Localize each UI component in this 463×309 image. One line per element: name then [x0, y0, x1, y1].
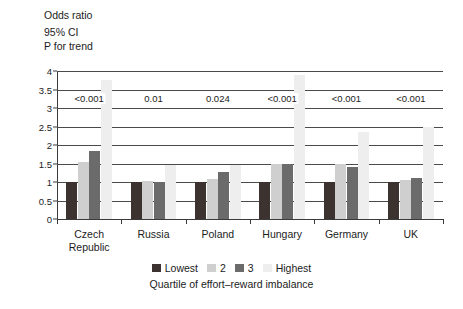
- bar[interactable]: [89, 151, 100, 219]
- caption-block: Odds ratio 95% CI P for trend: [44, 9, 93, 54]
- x-axis-category-label: Russia: [137, 228, 169, 241]
- x-axis-category-label: Germany: [325, 228, 368, 241]
- legend-swatch-icon: [235, 264, 244, 272]
- p-value-annotation: <0.001: [265, 93, 298, 104]
- legend-item[interactable]: 2: [207, 262, 226, 274]
- x-axis-category-label: Czech Republic: [69, 228, 110, 254]
- plot-area: 00.511.522.533.54 <0.0010.010.024<0.001<…: [57, 71, 443, 219]
- legend-swatch-icon: [263, 264, 272, 272]
- bar[interactable]: [347, 167, 358, 219]
- p-value-annotation: <0.001: [330, 93, 363, 104]
- x-axis-category-label: Poland: [201, 228, 234, 241]
- bar[interactable]: [423, 127, 434, 220]
- x-axis-tick-mark: [121, 219, 122, 224]
- bar-group: 0.01: [121, 71, 185, 219]
- bar[interactable]: [282, 164, 293, 220]
- bar[interactable]: [411, 178, 422, 219]
- legend-swatch-icon: [207, 264, 216, 272]
- x-axis-tick-mark: [314, 219, 315, 224]
- bar[interactable]: [388, 182, 399, 219]
- x-axis-tick-mark: [186, 219, 187, 224]
- bar[interactable]: [142, 181, 153, 219]
- bar[interactable]: [66, 182, 77, 219]
- caption-line-ci: 95% CI: [44, 26, 93, 40]
- bar[interactable]: [358, 132, 369, 219]
- bar[interactable]: [324, 182, 335, 219]
- bar-group: 0.024: [186, 71, 250, 219]
- p-value-annotation: <0.001: [72, 93, 105, 104]
- x-axis-tick-mark: [379, 219, 380, 224]
- bar-group: <0.001: [57, 71, 121, 219]
- bar[interactable]: [335, 164, 346, 220]
- legend-item[interactable]: Highest: [263, 262, 312, 274]
- p-value-annotation: 0.024: [204, 93, 232, 104]
- legend-item-label: 3: [248, 262, 254, 274]
- legend-item-label: 2: [220, 262, 226, 274]
- x-axis-label: Quartile of effort–reward imbalance: [0, 278, 463, 290]
- bar-group: <0.001: [250, 71, 314, 219]
- bar[interactable]: [195, 182, 206, 219]
- legend-item-label: Highest: [276, 262, 312, 274]
- bar-groups: <0.0010.010.024<0.001<0.001<0.001: [57, 71, 443, 219]
- figure: Odds ratio 95% CI P for trend 00.511.522…: [0, 0, 463, 309]
- bar[interactable]: [78, 162, 89, 219]
- p-value-annotation: <0.001: [394, 93, 427, 104]
- caption-line-odds-ratio: Odds ratio: [44, 9, 93, 23]
- legend: Lowest23Highest: [0, 262, 463, 274]
- bar[interactable]: [218, 172, 229, 219]
- caption-line-p-trend: P for trend: [44, 40, 93, 54]
- x-axis-tick-mark: [57, 219, 58, 224]
- legend-swatch-icon: [152, 264, 161, 272]
- x-axis-category-label: UK: [404, 228, 419, 241]
- p-value-annotation: 0.01: [142, 93, 165, 104]
- bar-group: <0.001: [314, 71, 378, 219]
- legend-item[interactable]: 3: [235, 262, 254, 274]
- bar[interactable]: [259, 182, 270, 219]
- x-axis-tick-mark: [443, 219, 444, 224]
- bar[interactable]: [131, 182, 142, 219]
- x-axis-category-label: Hungary: [262, 228, 302, 241]
- bar[interactable]: [271, 164, 282, 220]
- bar-group: <0.001: [379, 71, 443, 219]
- legend-item-label: Lowest: [165, 262, 198, 274]
- x-axis-tick-mark: [250, 219, 251, 224]
- bar[interactable]: [230, 165, 241, 219]
- legend-item[interactable]: Lowest: [152, 262, 198, 274]
- bar[interactable]: [400, 180, 411, 219]
- bar[interactable]: [165, 165, 176, 219]
- bar[interactable]: [154, 182, 165, 219]
- bar[interactable]: [207, 179, 218, 219]
